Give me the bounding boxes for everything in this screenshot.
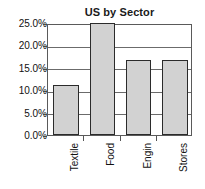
x-axis-tick-mark [83, 136, 84, 141]
bar-chart: US by Sector 0.0%5.0%10.0%15.0%20.0%25.0… [0, 0, 205, 189]
bar [53, 85, 78, 135]
bar-series [48, 25, 191, 135]
x-axis-tick-label: Engin [143, 143, 153, 169]
bar [90, 23, 115, 135]
y-axis-tick-label: 10.0% [3, 86, 47, 96]
chart-title: US by Sector [47, 6, 192, 18]
y-axis-tick-label: 5.0% [3, 109, 47, 119]
plot-area [47, 24, 192, 136]
x-axis-tick-mark [120, 136, 121, 141]
y-axis-tick-label: 0.0% [3, 131, 47, 141]
y-axis: 0.0%5.0%10.0%15.0%20.0%25.0% [0, 24, 47, 136]
bar [162, 60, 187, 135]
y-axis-tick-label: 25.0% [3, 19, 47, 29]
x-axis-tick-label: Food [106, 143, 116, 166]
x-axis-tick-label: Textile [70, 143, 80, 171]
x-axis-tick-mark [156, 136, 157, 141]
x-axis-tick-label: Stores [179, 143, 189, 172]
y-axis-tick-mark [43, 136, 47, 137]
bar [126, 60, 151, 135]
y-axis-tick-label: 15.0% [3, 64, 47, 74]
y-axis-tick-label: 20.0% [3, 41, 47, 51]
